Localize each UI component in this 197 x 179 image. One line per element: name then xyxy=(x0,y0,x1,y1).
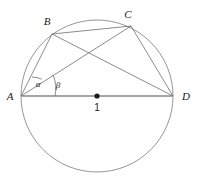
point-label-D: D xyxy=(182,91,190,102)
figure-canvas xyxy=(0,0,197,179)
center-point-label: 1 xyxy=(94,103,100,113)
geometry-figure: A B C D α β 1 xyxy=(0,0,197,179)
center-point-dot xyxy=(94,93,99,98)
angle-label-beta: β xyxy=(56,81,60,90)
angle-label-alpha: α xyxy=(36,80,41,89)
point-label-A: A xyxy=(7,91,14,102)
point-label-B: B xyxy=(44,16,51,27)
point-label-C: C xyxy=(124,9,131,20)
